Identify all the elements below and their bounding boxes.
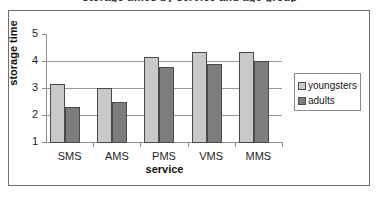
y-tick-mark <box>42 142 46 143</box>
x-tick-label-ams: AMS <box>93 150 141 162</box>
x-tick-mark <box>282 143 283 147</box>
x-tick-mark <box>235 143 236 147</box>
bar-ams-adults <box>112 102 127 144</box>
legend-swatch-icon-youngsters <box>298 82 306 90</box>
y-tick-label: 5 <box>16 28 38 39</box>
bar-pms-youngsters <box>144 57 159 143</box>
legend-item-adults[interactable]: adults <box>298 93 360 108</box>
legend-item-youngsters[interactable]: youngsters <box>298 78 360 93</box>
chart-title-remnant: storage times by service and age group <box>0 0 380 2</box>
x-tick-label-sms: SMS <box>46 150 94 162</box>
legend-label-youngsters: youngsters <box>308 81 357 91</box>
legend-label-adults: adults <box>308 96 335 106</box>
y-tick-label: 1 <box>16 136 38 147</box>
chart-legend: youngsters adults <box>294 73 361 111</box>
bar-vms-youngsters <box>192 52 207 143</box>
x-tick-label-pms: PMS <box>140 150 188 162</box>
bar-mms-youngsters <box>239 52 254 143</box>
y-tick-mark <box>42 34 46 35</box>
bar-mms-adults <box>254 61 269 143</box>
legend-swatch-icon-adults <box>298 97 306 105</box>
bar-sms-adults <box>65 107 80 143</box>
y-tick-label: 3 <box>16 82 38 93</box>
y-tick-mark <box>42 88 46 89</box>
y-tick-label: 4 <box>16 55 38 66</box>
y-tick-mark <box>42 61 46 62</box>
y-tick-mark <box>42 115 46 116</box>
y-tick-label: 2 <box>16 109 38 120</box>
bar-vms-adults <box>207 64 222 143</box>
x-tick-label-vms: VMS <box>187 150 235 162</box>
x-tick-mark <box>188 143 189 147</box>
x-axis-label: service <box>46 163 283 175</box>
x-tick-mark <box>140 143 141 147</box>
bar-sms-youngsters <box>50 84 65 143</box>
bar-ams-youngsters <box>97 88 112 143</box>
x-tick-label-mms: MMS <box>234 150 282 162</box>
x-tick-mark <box>93 143 94 147</box>
bar-pms-adults <box>159 67 174 143</box>
